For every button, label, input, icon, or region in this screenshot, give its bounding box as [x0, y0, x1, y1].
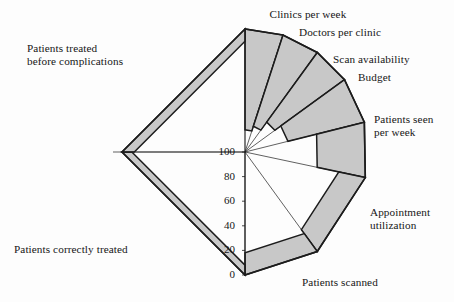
axis-label-patients-scanned: Patients scanned [302, 276, 432, 289]
tick-label-100: 100 [209, 145, 235, 157]
axis-label-patients-treated-before-complications: Patients treated before complications [27, 42, 187, 68]
axis-label-scan-availability: Scan availability [333, 53, 453, 66]
axis-label-budget: Budget [358, 71, 448, 84]
radar-chart-figure: 100 80 60 40 20 0 Clinics per week Docto… [0, 0, 454, 302]
tick-label-20: 20 [209, 243, 235, 255]
sector-appointment-utilization [301, 172, 365, 252]
tick-label-80: 80 [209, 170, 235, 182]
axis-spoke [245, 152, 317, 252]
tick-label-40: 40 [209, 219, 235, 231]
tick-label-60: 60 [209, 194, 235, 206]
axis-label-clinics-per-week: Clinics per week [248, 8, 368, 21]
axis-label-doctors-per-clinic: Doctors per clinic [299, 26, 429, 39]
tick-label-0: 0 [209, 268, 235, 280]
axis-label-patients-seen-per-week: Patients seen per week [374, 113, 454, 139]
axis-label-patients-correctly-treated: Patients correctly treated [14, 243, 174, 256]
axis-label-appointment-utilization: Appointment utilization [370, 206, 454, 232]
